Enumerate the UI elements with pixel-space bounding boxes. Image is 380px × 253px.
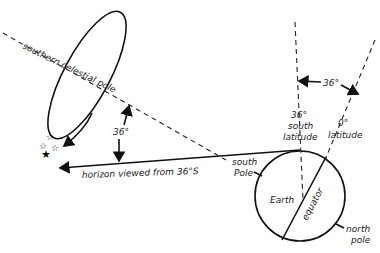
angle-arrow-up [124,106,129,125]
horizon-label: horizon viewed from 36°S [82,166,199,180]
celestial-pole-diagram: southern celestial pole ☆ ☆ ☆ ★ 36° hori… [0,0,380,253]
equator-label: equator [300,185,326,222]
angle-right-arrow-right [341,85,358,94]
south-pole-label-2: Pole [234,168,253,178]
lat0-label-a: 0° [338,118,348,128]
north-pole-leader [336,224,344,228]
lat36-label-c: latitude [283,132,318,142]
lat36-label-a: 36° [291,110,307,120]
north-pole-label-a: north [346,224,370,234]
lat36-label-b: south [288,121,313,131]
earth-circle [255,151,345,241]
horizon-line [60,150,300,168]
earth-label: Earth [270,195,294,205]
celestial-pole-label: southern celestial pole [21,41,118,95]
star-icon: ☆ [51,143,59,153]
lat0-axis [325,40,375,160]
lat0-label-b: latitude [328,130,363,140]
angle-left-label: 36° [113,127,129,137]
trail-arrow [64,113,92,146]
angle-right-arrow-left [299,81,321,82]
south-pole-label: south [232,157,257,167]
north-pole-label-b: pole [350,235,371,245]
angle-right-label: 36° [323,78,339,88]
star-icon: ☆ [46,132,54,142]
star-icon: ★ [41,148,51,160]
